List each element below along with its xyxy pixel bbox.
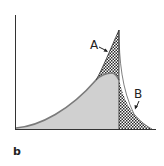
arrow-b-icon	[135, 101, 140, 110]
panel-label: b	[13, 146, 21, 157]
arrow-a-icon	[99, 47, 108, 52]
region-label-a: A	[90, 39, 98, 51]
distribution-diagram	[0, 0, 164, 166]
region-label-b: B	[134, 88, 142, 100]
base-area-fill	[16, 73, 119, 129]
